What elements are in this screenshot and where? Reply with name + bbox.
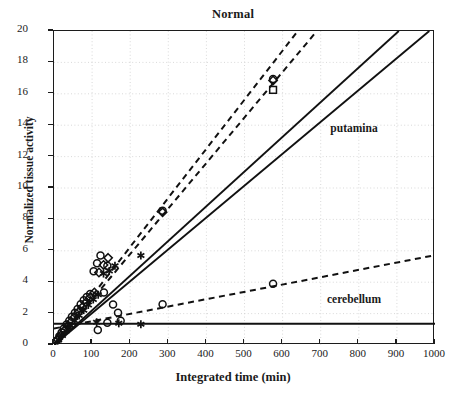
y-tick-label: 8 (0, 210, 28, 222)
x-tick-mark (357, 339, 358, 344)
y-tick-label: 10 (0, 179, 28, 191)
y-tick-mark (48, 218, 53, 219)
chart-figure: Normal Normalized tissue activity Integr… (0, 0, 466, 396)
x-tick-mark (52, 339, 53, 344)
y-tick-mark (48, 92, 53, 93)
y-tick-mark (48, 29, 53, 30)
y-tick-label: 18 (0, 53, 28, 65)
x-tick-mark (90, 339, 91, 344)
y-tick-mark (48, 61, 53, 62)
y-tick-mark (48, 186, 53, 187)
y-tick-label: 0 (0, 336, 28, 348)
x-axis-label: Integrated time (min) (0, 370, 466, 385)
y-tick-mark (48, 155, 53, 156)
y-tick-label: 20 (0, 22, 28, 34)
y-tick-label: 6 (0, 242, 28, 254)
annotation-putamina: putamina (330, 122, 377, 134)
y-tick-label: 16 (0, 85, 28, 97)
y-tick-mark (48, 312, 53, 313)
x-tick-mark (167, 339, 168, 344)
x-tick-mark (281, 339, 282, 344)
x-tick-mark (319, 339, 320, 344)
y-tick-label: 4 (0, 273, 28, 285)
x-tick-mark (395, 339, 396, 344)
x-tick-mark (243, 339, 244, 344)
y-tick-mark (48, 124, 53, 125)
y-tick-label: 2 (0, 305, 28, 317)
x-tick-mark (129, 339, 130, 344)
y-tick-label: 12 (0, 148, 28, 160)
y-tick-mark (48, 281, 53, 282)
x-tick-mark (205, 339, 206, 344)
y-tick-mark (48, 249, 53, 250)
annotation-cerebellum: cerebellum (327, 293, 381, 305)
chart-title: Normal (0, 7, 466, 22)
x-tick-label: 1000 (411, 347, 457, 359)
x-tick-mark (433, 339, 434, 344)
y-tick-label: 14 (0, 116, 28, 128)
